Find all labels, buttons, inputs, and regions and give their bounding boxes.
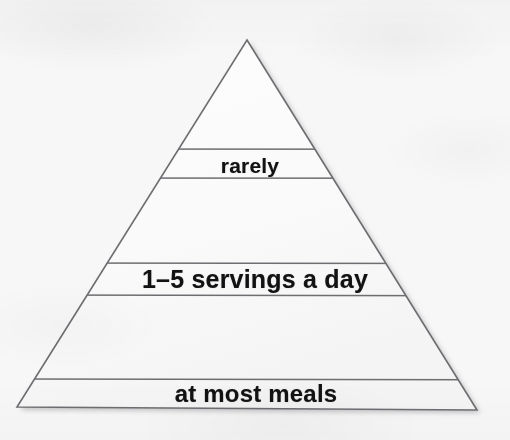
scanned-page: rarely 1–5 servings a day at most meals: [0, 0, 510, 440]
band-label-at-most-meals: at most meals: [175, 382, 338, 406]
pyramid-divider-4: [0, 295, 510, 296]
pyramid-body: [17, 40, 477, 410]
food-pyramid-figure: rarely 1–5 servings a day at most meals: [0, 0, 510, 440]
band-label-servings-a-day: 1–5 servings a day: [142, 267, 368, 292]
pyramid-divider-3: [0, 263, 510, 264]
band-label-rarely: rarely: [221, 155, 279, 176]
pyramid-graphic: [0, 0, 510, 440]
